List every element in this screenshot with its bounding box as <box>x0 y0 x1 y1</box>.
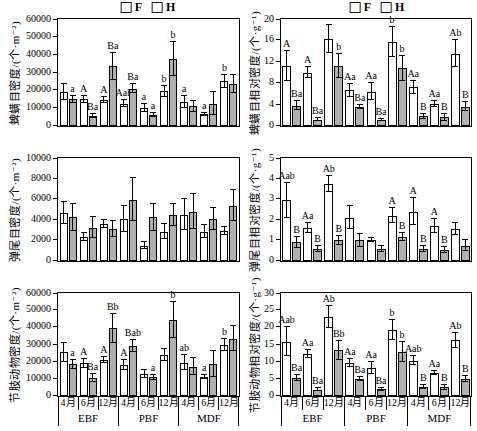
y-tick <box>53 344 58 345</box>
y-tick <box>276 61 281 62</box>
error-bar-cap <box>150 379 156 380</box>
error-bar-cap <box>284 50 290 51</box>
significance-label: B <box>420 102 427 112</box>
error-bar-cap <box>431 100 437 101</box>
error-bar-cap <box>294 100 300 101</box>
error-bar-cap <box>462 250 468 251</box>
error-bar-cap <box>326 191 332 192</box>
y-tick-label: 60000 <box>10 14 51 24</box>
error-bar-cap <box>141 111 147 112</box>
y-tick-label: 1 <box>233 234 274 244</box>
error-bar-cap <box>378 120 384 121</box>
y-tick <box>276 309 281 310</box>
error-bar-cap <box>389 26 395 27</box>
significance-label: a <box>202 101 206 111</box>
y-tick-label: 2000 <box>10 234 51 244</box>
error-bar-cap <box>315 390 321 391</box>
x-month-separator <box>218 396 219 410</box>
y-tick-label: 20000 <box>10 356 51 366</box>
error-bar <box>328 25 329 53</box>
x-group-label: EBF <box>78 412 98 424</box>
error-bar-cap <box>315 245 321 246</box>
significance-label: B <box>420 373 427 383</box>
significance-label: Ba <box>375 107 386 117</box>
error-bar-cap <box>61 361 67 362</box>
bar-H-PBF-4月 <box>129 89 137 126</box>
error-bar-cap <box>441 120 447 121</box>
significance-label: a <box>142 92 146 102</box>
error-bar <box>371 83 372 100</box>
significance-label: Aa <box>365 71 377 81</box>
error-bar-cap <box>336 53 342 54</box>
y-tick <box>53 125 58 126</box>
error-bar-cap <box>161 360 167 361</box>
x-month-separator <box>428 396 429 410</box>
error-bar-cap <box>210 91 216 92</box>
significance-label: A <box>388 196 395 206</box>
y-tick-label: 4000 <box>10 214 51 224</box>
significance-label: a <box>151 101 155 111</box>
error-bar-cap <box>420 245 426 246</box>
significance-label: Ba <box>107 41 118 51</box>
error-bar-cap <box>110 220 116 221</box>
y-tick-label: 0 <box>233 120 274 130</box>
error-bar-cap <box>294 380 300 381</box>
error-bar-cap <box>378 251 384 252</box>
error-bar-cap <box>141 241 147 242</box>
error-bar-cap <box>101 362 107 363</box>
error-bar-cap <box>420 118 426 119</box>
error-bar-cap <box>170 225 176 226</box>
y-tick <box>53 72 58 73</box>
error-bar-cap <box>190 374 196 375</box>
error-bar-cap <box>90 117 96 118</box>
error-bar-cap <box>357 376 363 377</box>
error-bar-cap <box>210 114 216 115</box>
x-group-separator <box>118 396 119 426</box>
significance-label: a <box>70 84 74 94</box>
bar-F-PBF-4月 <box>345 363 354 396</box>
error-bar-cap <box>431 374 437 375</box>
error-bar-cap <box>201 112 207 113</box>
error-bar-cap <box>452 222 458 223</box>
error-bar-cap <box>305 77 311 78</box>
error-bar-cap <box>462 239 468 240</box>
error-bar-cap <box>181 107 187 108</box>
x-group-label: PBF <box>139 412 159 424</box>
y-tick-label: 12 <box>233 56 274 66</box>
error-bar-cap <box>452 234 458 235</box>
significance-label: Ba <box>291 363 302 373</box>
significance-label: Bb <box>107 302 119 312</box>
error-bar-cap <box>284 355 290 356</box>
error-bar-cap <box>110 313 116 314</box>
plot-area-arthropod-density: 0100002000030000400005000060000AAAababaB… <box>57 292 240 397</box>
significance-label: B <box>462 90 469 100</box>
error-bar-cap <box>210 229 216 230</box>
x-group-separator <box>178 396 179 426</box>
legend-f-label: F <box>364 0 371 15</box>
plot-area-arthropod-relative-density: 051015202530AabAaAbAaAabAabAaAbBaBaBbBaB… <box>280 292 472 397</box>
error-bar-cap <box>190 193 196 194</box>
significance-label: B <box>441 102 448 112</box>
y-tick-label: 2 <box>233 214 274 224</box>
significance-label: b <box>171 290 176 300</box>
error-bar-cap <box>336 77 342 78</box>
y-tick <box>53 326 58 327</box>
y-tick-label: 50000 <box>10 31 51 41</box>
error-bar-cap <box>462 375 468 376</box>
y-tick-label: 4 <box>233 99 274 109</box>
error-bar-cap <box>305 357 311 358</box>
bar-F-EBF-12月 <box>324 317 333 396</box>
error-bar-cap <box>221 74 227 75</box>
x-month-separator <box>158 396 159 410</box>
error-bar-cap <box>431 106 437 107</box>
error-bar <box>153 204 154 231</box>
error-bar <box>132 178 133 221</box>
x-month-label: 12月 <box>450 397 470 409</box>
error-bar-cap <box>101 356 107 357</box>
significance-label: Ab <box>323 294 335 304</box>
error-bar-cap <box>230 189 236 190</box>
error-bar-cap <box>201 224 207 225</box>
significance-label: A <box>283 39 290 49</box>
error-bar-cap <box>347 366 353 367</box>
error-bar-cap <box>70 95 76 96</box>
